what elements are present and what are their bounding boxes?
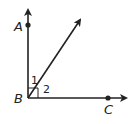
label-b: B: [14, 91, 23, 106]
label-a: A: [13, 19, 23, 34]
point-a: [25, 22, 30, 27]
point-c: [105, 95, 110, 100]
label-c: C: [104, 102, 114, 117]
label-angle-1: 1: [31, 74, 38, 87]
angle-diagram: A B C 1 2: [0, 0, 132, 124]
label-angle-2: 2: [43, 83, 50, 96]
